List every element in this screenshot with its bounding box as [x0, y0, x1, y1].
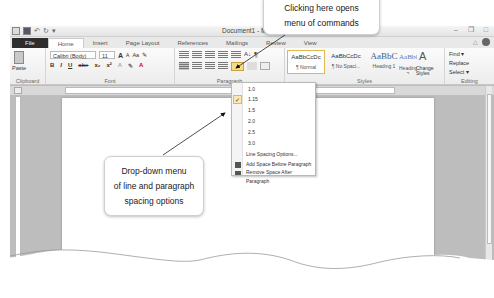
shrink-font-button[interactable]: A — [126, 52, 129, 58]
increase-indent-icon[interactable] — [231, 51, 241, 59]
align-right-icon[interactable] — [205, 62, 215, 70]
add-space-before-icon — [235, 162, 241, 168]
tab-references[interactable]: References — [168, 38, 217, 48]
multilevel-list-icon[interactable] — [205, 51, 215, 59]
ribbon-tabs: File Home Insert Page Layout References … — [10, 37, 494, 48]
style-no-spacing[interactable]: AaBbCcDc ¶ No Spaci... — [327, 50, 365, 74]
styles-group: AaBbCcDc ¶ Normal AaBbCcDc ¶ No Spaci...… — [285, 48, 445, 85]
paragraph-group: A↓ ¶ Paragraph — [175, 48, 285, 85]
font-color-icon[interactable]: A — [139, 62, 143, 69]
font-group: Calibri (Body) 11 A A Aa ✎ B I U abe x₂ … — [46, 48, 175, 85]
word-icon — [12, 27, 20, 35]
highlight-icon[interactable]: ✎ — [128, 62, 133, 69]
change-styles-icon[interactable]: A — [419, 50, 426, 62]
undo-icon[interactable]: ↶ — [34, 27, 40, 35]
editing-group: Find ▾ Replace Select ▾ Editing — [445, 48, 494, 85]
clipboard-group: Paste Clipboard — [10, 48, 46, 85]
show-hide-button[interactable]: ¶ — [254, 51, 258, 59]
quick-access-toolbar: ↶ ↻ ▾ — [12, 27, 56, 35]
tab-page-layout[interactable]: Page Layout — [117, 38, 169, 48]
restore-icon[interactable]: ❐ — [468, 26, 474, 34]
horizontal-ruler[interactable] — [65, 87, 395, 94]
tab-mailings[interactable]: Mailings — [217, 38, 257, 48]
tab-file[interactable]: File — [12, 38, 48, 48]
spacing-option-2-0[interactable]: 2.0 — [248, 117, 255, 126]
scrollbar-thumb[interactable] — [487, 94, 492, 244]
font-size-select[interactable]: 11 — [99, 51, 115, 59]
remove-space-after-item[interactable]: Remove Space After Paragraph — [246, 168, 315, 177]
italic-button[interactable]: I — [60, 62, 62, 69]
tab-home[interactable]: Home — [48, 38, 84, 48]
ribbon: Paste Clipboard Calibri (Body) 11 A A Aa… — [10, 48, 494, 85]
minimize-icon[interactable]: – — [454, 26, 458, 34]
paste-button[interactable]: Paste — [12, 65, 26, 71]
clear-formatting-icon[interactable]: ✎ — [142, 52, 147, 58]
style-heading-1[interactable]: AaBbC Heading 1 — [365, 50, 403, 74]
close-icon[interactable]: □ — [484, 26, 488, 34]
tab-insert[interactable]: Insert — [84, 38, 117, 48]
tab-selector[interactable] — [14, 87, 22, 94]
align-center-icon[interactable] — [192, 62, 202, 70]
find-button[interactable]: Find ▾ — [449, 51, 464, 57]
change-styles-button[interactable]: Change Styles — [416, 66, 444, 76]
bullets-icon[interactable] — [179, 51, 189, 59]
line-spacing-button[interactable] — [231, 62, 244, 71]
callout-dropdown-menu: Drop-down menu of line and paragraph spa… — [104, 156, 204, 216]
replace-button[interactable]: Replace — [449, 60, 469, 66]
font-group-label: Font — [46, 78, 174, 84]
title-bar: ↶ ↻ ▾ Document1 - Micro – ❐ □ — [10, 26, 494, 37]
redo-icon[interactable]: ↻ — [43, 27, 49, 35]
paste-icon[interactable] — [14, 51, 24, 64]
torn-edge — [0, 240, 494, 298]
text-effects-icon[interactable]: A — [118, 62, 122, 69]
grow-font-button[interactable]: A — [118, 52, 123, 59]
spacing-option-2-5[interactable]: 2.5 — [248, 128, 255, 137]
select-button[interactable]: Select ▾ — [449, 69, 469, 75]
remove-space-after-icon — [235, 171, 241, 175]
style-heading-2[interactable]: AaBbCc Heading 2 — [399, 50, 417, 74]
editing-group-label: Editing — [445, 78, 494, 84]
line-spacing-menu: 1.0 ✓ 1.15 1.5 2.0 2.5 3.0 Line Spacing … — [231, 82, 316, 176]
tab-view[interactable]: View — [295, 38, 326, 48]
strikethrough-button[interactable]: abe — [78, 62, 88, 69]
window-controls: – ❐ □ — [454, 26, 488, 34]
decrease-indent-icon[interactable] — [218, 51, 228, 59]
change-case-button[interactable]: Aa — [132, 52, 139, 58]
spacing-option-1-15[interactable]: 1.15 — [248, 95, 258, 104]
customize-qat-icon[interactable]: ▾ — [52, 27, 56, 35]
style-normal[interactable]: AaBbCcDc ¶ Normal — [287, 50, 325, 74]
numbering-icon[interactable] — [192, 51, 202, 59]
clipboard-group-label: Clipboard — [10, 78, 45, 84]
spacing-option-1-0[interactable]: 1.0 — [248, 85, 255, 94]
superscript-button[interactable]: x² — [106, 62, 111, 69]
spacing-option-1-5[interactable]: 1.5 — [248, 106, 255, 115]
minimize-ribbon-icon[interactable]: △ — [473, 38, 478, 45]
shading-icon[interactable] — [247, 62, 257, 70]
help-icon[interactable] — [482, 38, 490, 46]
bold-button[interactable]: B — [50, 62, 54, 69]
font-name-select[interactable]: Calibri (Body) — [50, 51, 96, 59]
subscript-button[interactable]: x₂ — [94, 62, 100, 69]
line-spacing-options-item[interactable]: Line Spacing Options... — [246, 150, 298, 159]
underline-button[interactable]: U — [68, 62, 72, 69]
align-left-icon[interactable] — [179, 62, 189, 70]
check-icon: ✓ — [233, 95, 242, 104]
callout-click-here: Clicking here opens menu of commands — [263, 0, 380, 35]
borders-icon[interactable] — [260, 62, 270, 70]
justify-icon[interactable] — [218, 62, 228, 70]
save-icon[interactable] — [23, 27, 31, 35]
tab-review[interactable]: Review — [257, 38, 295, 48]
sort-button[interactable]: A↓ — [244, 51, 251, 59]
spacing-option-3-0[interactable]: 3.0 — [248, 139, 255, 148]
